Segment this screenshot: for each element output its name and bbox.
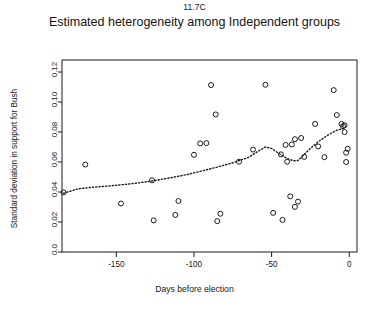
data-point	[296, 199, 301, 204]
axes-frame	[62, 60, 357, 252]
data-point	[344, 160, 349, 165]
x-tick-label: 0	[329, 260, 369, 269]
y-tick-label: 0.08	[50, 115, 59, 145]
data-point	[119, 201, 124, 206]
data-point	[173, 212, 178, 217]
y-tick-label: 0.06	[50, 145, 59, 175]
data-point	[280, 217, 285, 222]
data-point	[209, 83, 214, 88]
data-point	[316, 144, 321, 149]
data-point	[215, 219, 220, 224]
y-tick-label: 0.0	[50, 235, 59, 265]
y-tick-label: 0.10	[50, 85, 59, 115]
x-tick-label: -150	[96, 260, 136, 269]
x-axis-ticks	[116, 252, 349, 257]
chart-figure: 11.7C Estimated heterogeneity among Inde…	[0, 0, 389, 312]
data-point	[271, 210, 276, 215]
data-point	[204, 141, 209, 146]
loess-trend-line	[64, 128, 345, 193]
trend-line	[64, 128, 345, 193]
data-point	[218, 211, 223, 216]
data-point	[331, 88, 336, 93]
data-point	[292, 137, 297, 142]
data-point	[213, 112, 218, 117]
data-point	[191, 152, 196, 157]
data-point	[198, 141, 203, 146]
data-point	[342, 130, 347, 135]
data-point	[288, 194, 293, 199]
y-tick-label: 0.02	[50, 205, 59, 235]
y-axis-ticks	[58, 72, 62, 252]
data-point	[322, 155, 327, 160]
data-point	[151, 218, 156, 223]
data-point	[299, 136, 304, 141]
data-point	[83, 162, 88, 167]
data-point	[250, 147, 255, 152]
x-tick-label: -50	[252, 260, 292, 269]
data-point	[176, 199, 181, 204]
data-points-group	[61, 82, 350, 223]
data-point	[283, 142, 288, 147]
data-point	[289, 142, 294, 147]
data-point	[342, 123, 347, 128]
data-point	[334, 113, 339, 118]
x-tick-label: -100	[174, 260, 214, 269]
data-point	[285, 159, 290, 164]
data-point	[313, 121, 318, 126]
y-tick-label: 0.12	[50, 55, 59, 85]
data-point	[292, 204, 297, 209]
data-point	[263, 82, 268, 87]
y-tick-label: 0.04	[50, 175, 59, 205]
